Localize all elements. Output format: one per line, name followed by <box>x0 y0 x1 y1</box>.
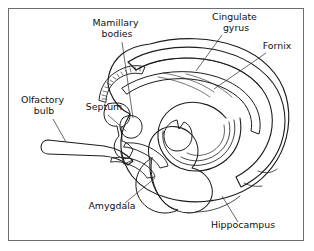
leader-mamillary-bodies <box>122 42 133 118</box>
label-mamillary-bodies: Mamillary bodies <box>93 17 142 39</box>
dentate-tooth-2 <box>102 95 106 96</box>
cingulate-inner-edge <box>136 58 262 89</box>
fornix-striation-1 <box>163 73 214 92</box>
fornix-striation-3 <box>186 74 232 97</box>
label-olfactory-bulb-line1: Olfactory <box>21 94 64 105</box>
label-fornix: Fornix <box>263 40 292 51</box>
dentate-tooth-8 <box>117 74 119 77</box>
dentate-tooth-11 <box>130 68 131 72</box>
olfactory-bulb-tract <box>41 140 133 165</box>
label-fornix-line1: Fornix <box>263 40 292 51</box>
label-amygdala-line1: Amygdala <box>88 200 135 211</box>
figure-root: Mamillary bodies Cingulate gyrus Fornix … <box>0 0 314 251</box>
label-olfactory-bulb-line2: bulb <box>34 105 54 116</box>
dentate-serration-band <box>99 66 145 102</box>
dentate-tooth-9 <box>121 72 123 75</box>
label-mamillary-bodies-line1: Mamillary <box>93 17 139 28</box>
label-mamillary-bodies-line2: bodies <box>102 28 133 39</box>
hippocampus-spiral-inner <box>181 122 230 161</box>
limbic-system-diagram: Mamillary bodies Cingulate gyrus Fornix … <box>0 0 314 251</box>
dentate-tooth-3 <box>103 91 107 92</box>
label-cingulate-gyrus: Cingulate gyrus <box>212 11 260 33</box>
leader-fornix <box>214 53 266 89</box>
cingulate-gyrus-band <box>128 47 285 187</box>
fornix-body <box>122 72 260 134</box>
label-olfactory-bulb: Olfactory bulb <box>21 94 67 116</box>
hippocampus-spiral-core <box>187 125 225 155</box>
cerebral-outline <box>108 39 289 202</box>
label-amygdala: Amygdala <box>88 200 135 211</box>
dentate-tooth-6 <box>110 80 113 82</box>
leader-olfactory-bulb <box>53 119 66 142</box>
label-cingulate-gyrus-line1: Cingulate <box>212 11 257 22</box>
label-hippocampus-line1: Hippocampus <box>211 219 275 230</box>
label-cingulate-gyrus-line2: gyrus <box>223 22 249 33</box>
label-hippocampus: Hippocampus <box>211 219 275 230</box>
label-septum: Septum <box>86 101 122 112</box>
hippocampus-head-notch <box>164 120 192 151</box>
label-septum-line1: Septum <box>86 101 122 112</box>
dentate-tooth-7 <box>113 77 116 79</box>
